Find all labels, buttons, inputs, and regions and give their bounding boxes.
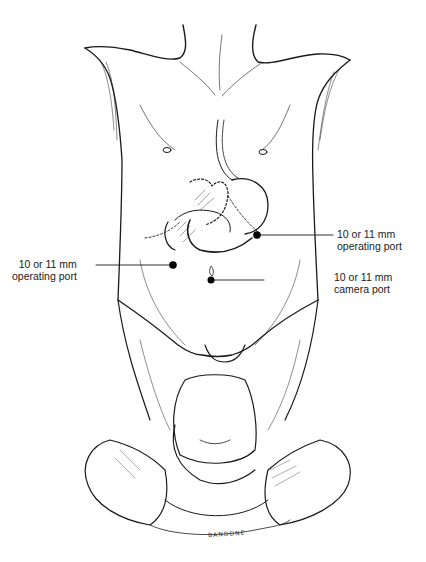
- camera-port-marker: [208, 277, 215, 284]
- perineum-and-drapes: [85, 375, 350, 535]
- camera-port-label: 10 or 11 mm camera port: [334, 271, 392, 295]
- left-operating-port-label: 10 or 11 mm operating port: [12, 258, 77, 282]
- chest: [140, 105, 290, 180]
- right-nipple: [259, 150, 267, 155]
- left-nipple: [163, 148, 171, 153]
- right-operating-port-marker: [253, 231, 261, 239]
- left-operating-port-marker: [169, 261, 177, 269]
- ports: [169, 231, 261, 283]
- right-operating-port-label: 10 or 11 mm operating port: [337, 228, 402, 252]
- neck-shoulders-outline: [85, 25, 350, 96]
- umbilicus: [210, 266, 214, 276]
- callout-lines: [96, 235, 333, 280]
- torso-outline: [85, 48, 350, 300]
- hernia-region: [145, 179, 268, 252]
- lower-abdomen: [118, 260, 318, 362]
- legs: [118, 300, 318, 430]
